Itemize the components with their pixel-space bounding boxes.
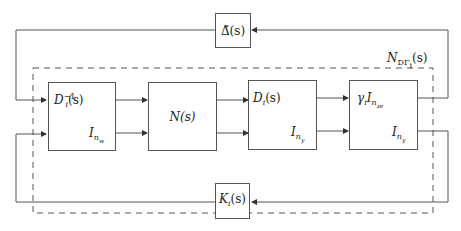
block-gamma: γiInze Iny xyxy=(349,80,418,150)
block-k: Ki(s) xyxy=(215,183,250,219)
block-d: Di(s) Iny xyxy=(248,80,317,150)
gamma-bottom-label: Iny xyxy=(392,126,405,143)
dinv-top-label: D−1i(s) xyxy=(54,93,84,109)
delta-label: Δ̃(s) xyxy=(221,25,245,37)
k-label: Ki(s) xyxy=(219,193,246,208)
block-delta: Δ̃(s) xyxy=(215,13,251,48)
gamma-top-label: γiInze xyxy=(357,92,383,109)
block-n: N(s) xyxy=(148,82,217,151)
d-bottom-label: Iny xyxy=(291,126,304,143)
group-label: NDΓi(s) xyxy=(387,52,428,70)
dinv-bottom-label: Inw xyxy=(89,127,104,144)
n-label: N(s) xyxy=(169,111,195,123)
block-dinv: D−1i(s) Inw xyxy=(48,82,116,151)
d-top-label: Di(s) xyxy=(253,92,281,107)
